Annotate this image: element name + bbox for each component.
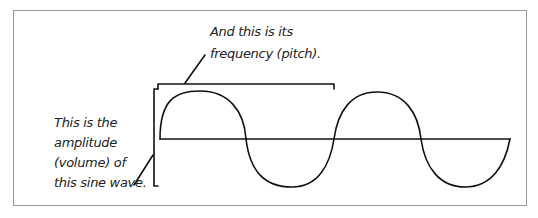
frequency-bracket	[158, 84, 334, 89]
frequency-annotation-line: And this is its	[210, 21, 321, 43]
frequency-annotation-line: frequency (pitch).	[210, 43, 321, 65]
frequency-leader-line	[185, 55, 205, 83]
amplitude-bracket	[154, 89, 158, 186]
amplitude-annotation-line: This is the	[54, 113, 147, 133]
frequency-annotation: And this is its frequency (pitch).	[210, 21, 321, 65]
amplitude-annotation-line: this sine wave.	[54, 173, 147, 193]
amplitude-annotation: This is the amplitude (volume) of this s…	[54, 113, 147, 193]
amplitude-annotation-line: amplitude	[54, 133, 147, 153]
amplitude-annotation-line: (volume) of	[54, 153, 147, 173]
